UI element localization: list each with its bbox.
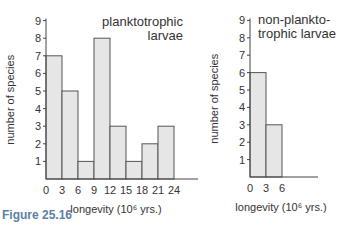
figure-caption: Figure 25.16 <box>2 208 72 222</box>
y-tick-label: 6 <box>239 67 245 79</box>
x-tick-label: 21 <box>152 184 164 196</box>
bar <box>78 161 94 179</box>
y-tick-label: 2 <box>239 136 245 148</box>
x-axis-label: longevity (10⁶ yrs.) <box>70 203 161 215</box>
bar <box>142 144 158 179</box>
x-tick-label: 3 <box>263 182 269 194</box>
x-tick-label: 0 <box>43 184 49 196</box>
x-tick-label: 15 <box>120 184 132 196</box>
figure: 12345678903691215182124planktotrophiclar… <box>0 0 347 229</box>
y-tick-label: 8 <box>239 32 245 44</box>
y-tick-label: 9 <box>239 14 245 26</box>
bar <box>46 56 62 179</box>
bar <box>94 38 110 179</box>
y-tick-label: 3 <box>239 119 245 131</box>
chart-title: planktotrophic <box>102 14 183 29</box>
y-tick-label: 4 <box>35 103 41 115</box>
x-tick-label: 24 <box>168 184 180 196</box>
bar <box>126 161 142 179</box>
x-tick-label: 18 <box>136 184 148 196</box>
chart-title: non-plankto- <box>258 12 330 27</box>
bar <box>250 73 266 177</box>
y-tick-label: 1 <box>35 155 41 167</box>
x-tick-label: 3 <box>59 184 65 196</box>
y-tick-label: 1 <box>239 154 245 166</box>
y-tick-label: 2 <box>35 138 41 150</box>
x-tick-label: 12 <box>104 184 116 196</box>
y-tick-label: 7 <box>239 49 245 61</box>
bar <box>62 91 78 179</box>
y-tick-label: 4 <box>239 101 245 113</box>
bar <box>266 125 282 177</box>
y-axis-label: number of species <box>208 53 220 143</box>
chart-title: larvae <box>148 28 183 43</box>
bar <box>110 126 126 179</box>
y-tick-label: 8 <box>35 32 41 44</box>
y-axis-label: number of species <box>4 54 16 144</box>
y-tick-label: 9 <box>35 15 41 27</box>
x-tick-label: 0 <box>247 182 253 194</box>
x-axis-label: longevity (10⁶ yrs.) <box>235 201 326 213</box>
y-tick-label: 6 <box>35 67 41 79</box>
chart-title: trophic larvae <box>258 26 336 41</box>
y-tick-label: 5 <box>35 85 41 97</box>
x-tick-label: 9 <box>91 184 97 196</box>
y-tick-label: 5 <box>239 84 245 96</box>
x-tick-label: 6 <box>279 182 285 194</box>
y-tick-label: 7 <box>35 50 41 62</box>
bar <box>158 126 174 179</box>
x-tick-label: 6 <box>75 184 81 196</box>
y-tick-label: 3 <box>35 120 41 132</box>
